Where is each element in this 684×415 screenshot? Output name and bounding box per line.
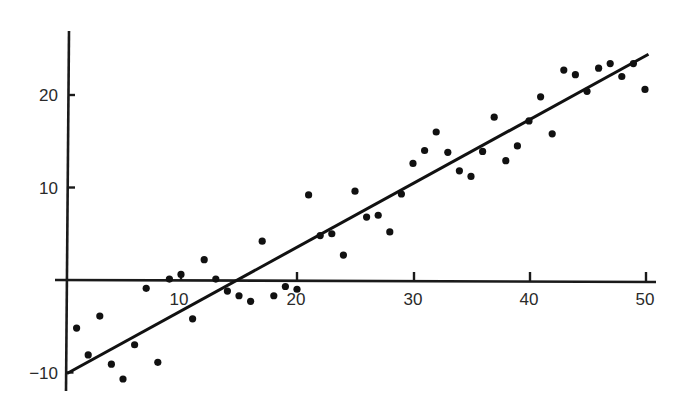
- fit-line: [67, 54, 648, 373]
- data-point: [595, 65, 602, 72]
- data-point: [328, 230, 335, 237]
- data-point: [444, 149, 451, 156]
- data-point: [351, 188, 358, 195]
- data-point: [131, 341, 138, 348]
- x-tick-label: 30: [404, 290, 423, 309]
- data-point: [386, 228, 393, 235]
- data-point: [96, 312, 103, 319]
- data-point: [479, 148, 486, 155]
- data-point: [560, 66, 567, 73]
- y-axis: [66, 31, 69, 391]
- data-point: [224, 288, 231, 295]
- data-point: [154, 359, 161, 366]
- data-point: [641, 86, 648, 93]
- data-point: [467, 173, 474, 180]
- data-point: [235, 292, 242, 299]
- data-point: [119, 375, 126, 382]
- y-tick-label: 20: [39, 86, 58, 105]
- data-point: [73, 325, 80, 332]
- data-point: [409, 160, 416, 167]
- data-point: [201, 256, 208, 263]
- data-point: [317, 232, 324, 239]
- x-tick-label: 20: [287, 290, 306, 309]
- data-point: [583, 88, 590, 95]
- data-point: [537, 93, 544, 100]
- data-point: [433, 128, 440, 135]
- data-point: [618, 73, 625, 80]
- x-tick-label: 40: [520, 290, 539, 309]
- axes: [55, 31, 656, 391]
- x-axis: [55, 280, 656, 282]
- data-point: [189, 315, 196, 322]
- y-tick-label: 10: [39, 179, 58, 198]
- data-point: [177, 271, 184, 278]
- y-tick-label: −10: [29, 364, 58, 383]
- data-point: [549, 130, 556, 137]
- data-point: [340, 251, 347, 258]
- scatter-plot: 1020304050−101020: [0, 0, 684, 415]
- data-points: [73, 60, 649, 383]
- data-point: [212, 275, 219, 282]
- data-point: [375, 212, 382, 219]
- data-point: [525, 117, 532, 124]
- data-point: [630, 60, 637, 67]
- data-point: [363, 214, 370, 221]
- data-point: [514, 142, 521, 149]
- data-point: [259, 238, 266, 245]
- data-point: [491, 114, 498, 121]
- data-point: [293, 286, 300, 293]
- regression-line: [67, 54, 648, 373]
- data-point: [607, 60, 614, 67]
- data-point: [270, 292, 277, 299]
- data-point: [166, 275, 173, 282]
- data-point: [398, 190, 405, 197]
- data-point: [143, 285, 150, 292]
- x-tick-label: 50: [636, 290, 655, 309]
- data-point: [85, 351, 92, 358]
- data-point: [247, 298, 254, 305]
- data-point: [305, 191, 312, 198]
- data-point: [108, 361, 115, 368]
- tick-labels: 1020304050−101020: [29, 86, 654, 383]
- axis-ticks: [67, 95, 647, 373]
- data-point: [456, 167, 463, 174]
- data-point: [282, 283, 289, 290]
- x-tick-label: 10: [170, 290, 189, 309]
- data-point: [421, 147, 428, 154]
- data-point: [502, 157, 509, 164]
- data-point: [572, 71, 579, 78]
